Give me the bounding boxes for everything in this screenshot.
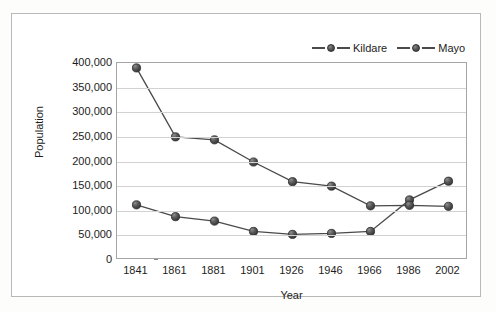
legend-label: Kildare [352, 43, 388, 54]
x-tick-label: 1861 [153, 265, 197, 276]
x-tick-label: 1946 [309, 265, 353, 276]
y-tick-label: 50,000 [56, 229, 112, 240]
y-tick-label: 0 [56, 254, 112, 265]
y-tick-label: 350,000 [56, 81, 112, 92]
legend-entry-kildare[interactable]: Kildare [312, 43, 388, 54]
x-axis-title: Year [116, 289, 467, 301]
y-tick-label: 250,000 [56, 130, 112, 141]
data-point-kildare-1881 [210, 217, 218, 225]
y-tick-label: 400,000 [56, 57, 112, 68]
data-point-kildare-2002 [444, 177, 452, 185]
x-tick-label: 2002 [426, 265, 470, 276]
data-point-mayo-1966 [366, 202, 374, 210]
x-tick-label: 1841 [114, 265, 158, 276]
x-tick-label: 1881 [192, 265, 236, 276]
plot-area [116, 62, 467, 259]
data-point-kildare-1926 [288, 230, 296, 238]
data-point-kildare-1966 [366, 227, 374, 235]
x-tick-label: 1901 [231, 265, 275, 276]
legend-label: Mayo [437, 43, 466, 54]
legend-entry-mayo[interactable]: Mayo [397, 43, 466, 54]
gridline [117, 162, 466, 163]
y-tick-label: 200,000 [56, 155, 112, 166]
x-tick-label: 1966 [348, 265, 392, 276]
chart-screenshot: KildareMayo Population 400,000350,000300… [0, 0, 496, 312]
y-axis-tick-labels: 400,000350,000300,000250,000200,000150,0… [54, 62, 112, 259]
legend-marker-icon [327, 44, 335, 52]
y-tick-label: 150,000 [56, 180, 112, 191]
y-tick-label: 300,000 [56, 106, 112, 117]
data-point-kildare-1901 [249, 227, 257, 235]
figure-frame: KildareMayo Population 400,000350,000300… [11, 13, 481, 297]
gridline [117, 112, 466, 113]
y-tick-label: 100,000 [56, 204, 112, 215]
legend-line-icon [337, 47, 350, 49]
data-point-mayo-2002 [444, 202, 452, 210]
legend-line-icon [312, 47, 325, 49]
data-point-mayo-1841 [132, 64, 140, 72]
legend-marker-icon [412, 44, 420, 52]
data-point-mayo-1986 [405, 201, 413, 209]
chart-legend: KildareMayo [312, 40, 466, 56]
data-point-kildare-1861 [171, 213, 179, 221]
x-tick-label: 1926 [270, 265, 314, 276]
data-point-mayo-1926 [288, 178, 296, 186]
series-line-kildare [137, 181, 449, 234]
gridline [117, 137, 466, 138]
legend-line-icon [422, 47, 435, 49]
gridline [117, 88, 466, 89]
gridline [117, 186, 466, 187]
x-tick-label: 1986 [387, 265, 431, 276]
gridline [117, 235, 466, 236]
gridline [117, 211, 466, 212]
data-point-kildare-1841 [132, 201, 140, 209]
legend-line-icon [397, 47, 410, 49]
y-axis-title: Population [33, 87, 45, 177]
x-axis-tick-labels: 184118611881190119261946196619862002 [116, 265, 467, 279]
